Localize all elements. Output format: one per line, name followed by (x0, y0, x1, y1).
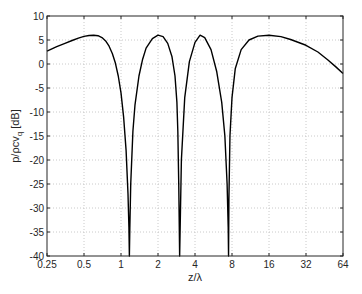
y-tick-label: 0 (38, 59, 44, 70)
y-tick-label: -5 (35, 83, 44, 94)
y-tick-label: -25 (30, 179, 45, 190)
y-tick-label: -10 (30, 107, 45, 118)
y-tick-label: 10 (33, 11, 45, 22)
x-tick-label: 32 (300, 259, 312, 270)
y-tick-label: -35 (30, 227, 45, 238)
y-tick-label: 5 (38, 35, 44, 46)
x-tick-label: 64 (337, 259, 349, 270)
x-tick-label: 1 (118, 259, 124, 270)
x-tick-label: 16 (263, 259, 275, 270)
y-label-main: p/ρcv (9, 136, 21, 163)
x-tick-labels: 0.250.51248163264 (37, 259, 349, 270)
x-tick-label: 4 (192, 259, 198, 270)
x-tick-label: 8 (229, 259, 235, 270)
y-tick-label: -30 (30, 203, 45, 214)
y-tick-label: -40 (30, 251, 45, 262)
x-tick-label: 0.5 (77, 259, 91, 270)
x-tick-label: 2 (155, 259, 161, 270)
chart: 0.250.51248163264 1050-5-10-15-20-25-30-… (0, 0, 362, 294)
y-tick-label: -20 (30, 155, 45, 166)
y-label-unit: [dB] (9, 109, 21, 132)
x-axis-label: z/λ (188, 271, 203, 283)
y-tick-label: -15 (30, 131, 45, 142)
